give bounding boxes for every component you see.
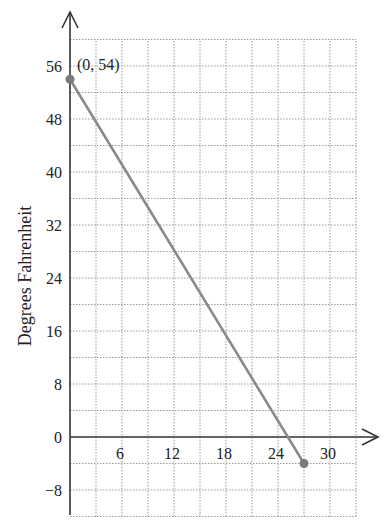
series-line	[70, 79, 304, 463]
y-tick-labels: 56484032241680−8	[45, 58, 62, 499]
data-point	[66, 75, 75, 84]
y-tick-label: −8	[45, 482, 62, 499]
y-tick-label: 0	[54, 429, 62, 446]
x-tick-label: 30	[320, 445, 336, 462]
x-tick-label: 12	[164, 445, 180, 462]
y-tick-label: 48	[46, 111, 62, 128]
x-tick-label: 6	[116, 445, 124, 462]
data-series	[66, 75, 309, 468]
y-tick-label: 8	[54, 376, 62, 393]
y-tick-label: 40	[46, 164, 62, 181]
grid	[70, 40, 356, 517]
point-annotation: (0, 54)	[77, 56, 120, 74]
x-tick-label: 24	[268, 445, 284, 462]
data-point	[300, 459, 309, 468]
x-tick-label: 18	[216, 445, 232, 462]
line-chart: 612182430 56484032241680−8 Degrees Fahre…	[0, 0, 391, 530]
y-tick-label: 24	[46, 270, 62, 287]
y-tick-label: 56	[46, 58, 62, 75]
y-tick-label: 16	[46, 323, 62, 340]
axes	[62, 12, 378, 515]
y-axis-label: Degrees Fahrenheit	[15, 206, 35, 346]
y-tick-label: 32	[46, 217, 62, 234]
